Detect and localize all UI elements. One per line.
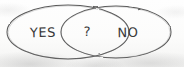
set-label-yes: YES	[20, 25, 66, 39]
set-label-no: NO	[108, 26, 148, 40]
intersection-label-question-mark: ?	[76, 25, 98, 38]
venn-diagram-canvas: YES ? NO	[0, 0, 184, 67]
